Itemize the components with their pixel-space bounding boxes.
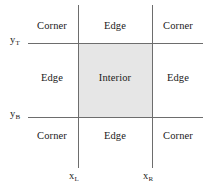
axis-label-y-top-subscript: T — [15, 39, 20, 47]
axis-label-x-right-subscript: R — [148, 175, 153, 183]
region-label-interior: Interior — [78, 72, 152, 83]
region-label-bottom-right: Corner — [152, 130, 204, 141]
region-classification-diagram: Corner Edge Corner Edge Interior Edge Co… — [0, 0, 210, 193]
axis-label-x-left: xL — [69, 170, 79, 181]
region-label-middle-right: Edge — [152, 72, 204, 83]
region-label-top-center: Edge — [78, 20, 152, 31]
region-label-top-left: Corner — [26, 20, 78, 31]
axis-label-x-left-subscript: L — [74, 175, 79, 183]
axis-label-y-bottom-subscript: B — [15, 113, 20, 121]
region-label-bottom-center: Edge — [78, 130, 152, 141]
region-label-bottom-left: Corner — [26, 130, 78, 141]
gridline-horizontal-bottom — [28, 117, 203, 118]
axis-label-y-bottom: yB — [10, 108, 20, 119]
region-label-top-right: Corner — [152, 20, 204, 31]
gridline-horizontal-top — [28, 43, 203, 44]
axis-label-y-top: yT — [10, 34, 20, 45]
region-label-middle-left: Edge — [26, 72, 78, 83]
axis-label-x-right: xR — [143, 170, 153, 181]
